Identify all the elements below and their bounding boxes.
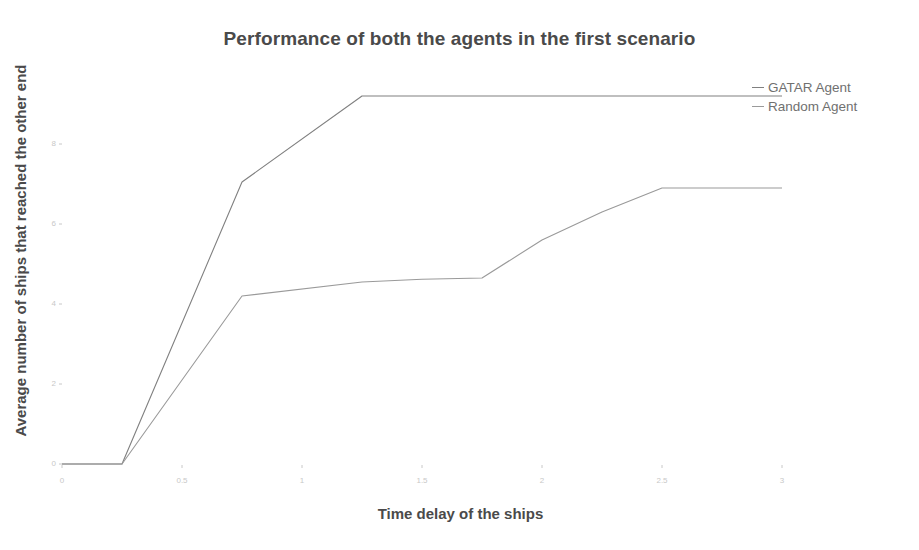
y-tick-label: 8 <box>36 139 56 148</box>
y-tick-label: 0 <box>36 459 56 468</box>
legend-item-2[interactable]: Random Agent <box>752 97 857 116</box>
series-line-1 <box>62 96 782 464</box>
x-tick-label: 0 <box>47 476 77 485</box>
x-tick-label: 1 <box>287 476 317 485</box>
legend-item-1[interactable]: GATAR Agent <box>752 78 857 97</box>
x-tick-label: 2.5 <box>647 476 677 485</box>
legend-line-swatch-icon <box>752 87 764 88</box>
y-tick-label: 6 <box>36 219 56 228</box>
x-tick-label: 1.5 <box>407 476 437 485</box>
series-line-2 <box>62 188 782 464</box>
y-tick-label: 2 <box>36 379 56 388</box>
legend-item-label: GATAR Agent <box>768 78 851 97</box>
x-tick-label: 0.5 <box>167 476 197 485</box>
y-tick-label: 4 <box>36 299 56 308</box>
x-tick-label: 3 <box>767 476 797 485</box>
chart-container: Performance of both the agents in the fi… <box>0 0 919 550</box>
x-axis-title: Time delay of the ships <box>62 505 859 522</box>
chart-legend: GATAR AgentRandom Agent <box>752 78 857 116</box>
legend-item-label: Random Agent <box>768 97 857 116</box>
x-tick-label: 2 <box>527 476 557 485</box>
legend-line-swatch-icon <box>752 106 764 107</box>
